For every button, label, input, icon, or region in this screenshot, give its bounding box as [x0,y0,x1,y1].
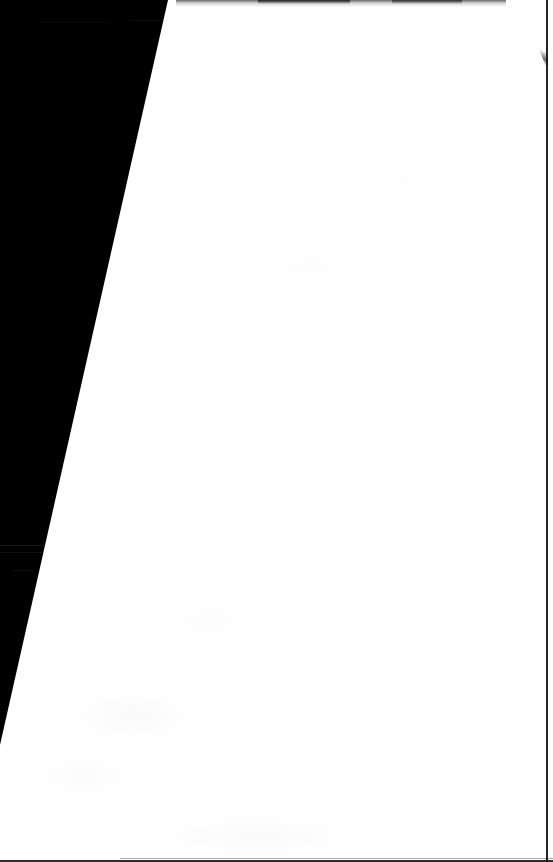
backdrop-streak-icon [0,545,48,546]
top-edge-smudge-mark [392,0,462,4]
backdrop-streak-icon [12,570,34,571]
right-frame-rule [546,0,548,862]
bottom-frame-rule-faint [120,858,553,859]
right-margin-strip [548,0,553,862]
backdrop-streak-icon [40,22,110,23]
document-scan-canvas [0,0,553,862]
top-edge-smudge-mark [258,0,350,4]
backdrop-streak-icon [0,552,44,553]
backdrop-streak-icon [130,20,166,21]
